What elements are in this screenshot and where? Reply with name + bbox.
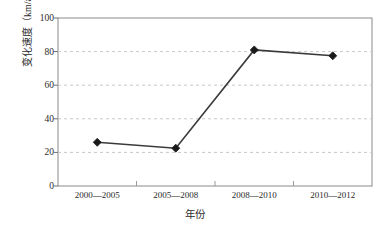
y-tick-label-40: 40 [28, 114, 54, 124]
y-tick-label-0: 0 [28, 181, 54, 191]
x-tick-label-3: 2010—2012 [310, 190, 355, 201]
plot-frame [58, 18, 372, 186]
y-tick-marks [54, 18, 58, 186]
x-tick-label-0: 2000—2005 [75, 190, 120, 201]
y-axis-title: 变化速度（km/a） [17, 0, 35, 111]
y-tick-label-20: 20 [28, 147, 54, 157]
x-axis-title: 年份 [0, 206, 390, 221]
x-tick-label-1: 2005—2008 [153, 190, 198, 201]
x-axis-tick-labels: 2000—2005 2005—2008 2008—2010 2010—2012 [58, 190, 372, 204]
line-chart: 100 80 60 40 20 0 变化速度（km/a） 2000—2005 2… [0, 0, 390, 229]
x-tick-label-2: 2008—2010 [232, 190, 277, 201]
